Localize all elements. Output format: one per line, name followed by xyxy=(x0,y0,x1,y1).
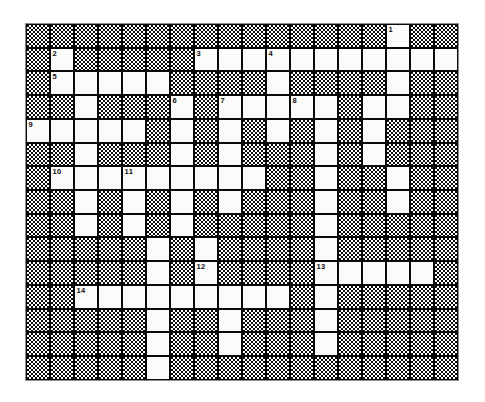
crossword-cell-open[interactable] xyxy=(146,285,170,309)
crossword-cell-open[interactable] xyxy=(338,48,362,72)
crossword-cell-open[interactable] xyxy=(74,190,98,214)
crossword-cell-open[interactable]: 12 xyxy=(194,261,218,285)
crossword-cell-open[interactable] xyxy=(122,285,146,309)
crossword-cell-open[interactable] xyxy=(266,71,290,95)
crossword-cell-open[interactable] xyxy=(98,119,122,143)
crossword-cell-open[interactable] xyxy=(50,119,74,143)
crossword-cell-open[interactable] xyxy=(362,143,386,167)
crossword-cell-open[interactable] xyxy=(170,190,194,214)
crossword-cell-open[interactable] xyxy=(122,71,146,95)
crossword-cell-open[interactable]: 11 xyxy=(122,166,146,190)
crossword-cell-open[interactable] xyxy=(314,166,338,190)
crossword-cell-open[interactable] xyxy=(170,285,194,309)
crossword-cell-open[interactable] xyxy=(74,214,98,238)
crossword-cell-open[interactable] xyxy=(314,309,338,333)
crossword-cell-open[interactable] xyxy=(386,48,410,72)
crossword-cell-open[interactable] xyxy=(386,190,410,214)
crossword-cell-open[interactable] xyxy=(218,143,242,167)
crossword-cell-open[interactable] xyxy=(122,119,146,143)
crossword-cell-open[interactable] xyxy=(170,166,194,190)
crossword-cell-open[interactable] xyxy=(242,48,266,72)
crossword-cell-open[interactable] xyxy=(314,143,338,167)
crossword-cell-open[interactable] xyxy=(290,48,314,72)
crossword-cell-open[interactable] xyxy=(314,214,338,238)
crossword-cell-open[interactable] xyxy=(146,237,170,261)
crossword-cell-open[interactable] xyxy=(266,119,290,143)
crossword-cell-open[interactable] xyxy=(242,95,266,119)
crossword-cell-open[interactable] xyxy=(314,332,338,356)
crossword-cell-open[interactable] xyxy=(218,309,242,333)
crossword-cell-open[interactable] xyxy=(146,356,170,380)
crossword-cell-open[interactable] xyxy=(146,309,170,333)
crossword-cell-block xyxy=(26,309,50,333)
crossword-cell-block xyxy=(50,332,74,356)
crossword-cell-open[interactable] xyxy=(410,261,434,285)
crossword-cell-open[interactable] xyxy=(74,119,98,143)
crossword-cell-open[interactable] xyxy=(146,261,170,285)
crossword-cell-open[interactable] xyxy=(218,190,242,214)
crossword-cell-open[interactable] xyxy=(362,95,386,119)
crossword-cell-open[interactable] xyxy=(122,214,146,238)
crossword-cell-open[interactable] xyxy=(386,261,410,285)
crossword-cell-open[interactable] xyxy=(314,48,338,72)
crossword-cell-open[interactable] xyxy=(218,332,242,356)
crossword-cell-open[interactable] xyxy=(386,95,410,119)
crossword-cell-open[interactable] xyxy=(242,166,266,190)
crossword-cell-open[interactable] xyxy=(266,285,290,309)
crossword-cell-open[interactable]: 6 xyxy=(170,95,194,119)
crossword-cell-open[interactable] xyxy=(386,71,410,95)
crossword-cell-open[interactable] xyxy=(98,71,122,95)
crossword-cell-open[interactable] xyxy=(98,166,122,190)
crossword-cell-open[interactable]: 8 xyxy=(290,95,314,119)
crossword-cell-open[interactable] xyxy=(314,285,338,309)
crossword-cell-open[interactable] xyxy=(434,48,458,72)
crossword-cell-open[interactable] xyxy=(170,143,194,167)
crossword-cell-open[interactable] xyxy=(194,237,218,261)
crossword-cell-open[interactable]: 9 xyxy=(26,119,50,143)
crossword-cell-open[interactable] xyxy=(74,95,98,119)
crossword-cell-open[interactable] xyxy=(218,166,242,190)
crossword-cell-open[interactable] xyxy=(122,190,146,214)
crossword-cell-open[interactable] xyxy=(218,119,242,143)
crossword-cell-open[interactable] xyxy=(338,261,362,285)
crossword-cell-open[interactable] xyxy=(362,119,386,143)
crossword-cell-open[interactable] xyxy=(386,166,410,190)
crossword-cell-open[interactable] xyxy=(242,285,266,309)
crossword-cell-open[interactable] xyxy=(170,214,194,238)
crossword-cell-open[interactable] xyxy=(314,190,338,214)
crossword-cell-open[interactable] xyxy=(146,166,170,190)
crossword-cell-open[interactable] xyxy=(74,71,98,95)
crossword-cell-open[interactable] xyxy=(266,95,290,119)
crossword-cell-open[interactable]: 5 xyxy=(50,71,74,95)
crossword-cell-open[interactable]: 2 xyxy=(50,48,74,72)
crossword-cell-open[interactable]: 3 xyxy=(194,48,218,72)
crossword-cell-open[interactable] xyxy=(74,143,98,167)
crossword-cell-open[interactable] xyxy=(314,119,338,143)
crossword-cell-block xyxy=(242,332,266,356)
crossword-cell-open[interactable] xyxy=(194,166,218,190)
crossword-cell-open[interactable] xyxy=(410,48,434,72)
crossword-grid[interactable]: 1234567891011121314 xyxy=(26,24,458,380)
crossword-cell-open[interactable]: 1 xyxy=(386,24,410,48)
crossword-cell-open[interactable] xyxy=(314,237,338,261)
crossword-cell-block xyxy=(218,237,242,261)
crossword-cell-open[interactable] xyxy=(362,261,386,285)
crossword-cell-open[interactable] xyxy=(146,71,170,95)
crossword-cell-open[interactable] xyxy=(218,285,242,309)
crossword-cell-open[interactable]: 10 xyxy=(50,166,74,190)
crossword-cell-open[interactable] xyxy=(194,285,218,309)
crossword-cell-open[interactable] xyxy=(74,166,98,190)
crossword-cell-block xyxy=(410,166,434,190)
crossword-cell-open[interactable] xyxy=(170,119,194,143)
crossword-cell-open[interactable]: 14 xyxy=(74,285,98,309)
crossword-cell-open[interactable] xyxy=(314,95,338,119)
crossword-cell-open[interactable]: 7 xyxy=(218,95,242,119)
crossword-cell-block xyxy=(410,24,434,48)
crossword-cell-open[interactable] xyxy=(218,48,242,72)
crossword-cell-open[interactable] xyxy=(362,48,386,72)
crossword-cell-open[interactable] xyxy=(98,285,122,309)
crossword-clue-number: 12 xyxy=(197,262,206,271)
crossword-cell-open[interactable] xyxy=(146,332,170,356)
crossword-cell-open[interactable]: 13 xyxy=(314,261,338,285)
crossword-cell-open[interactable]: 4 xyxy=(266,48,290,72)
